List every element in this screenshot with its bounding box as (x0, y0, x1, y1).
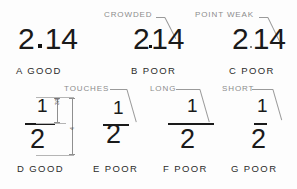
decimal-c-fraction: 14 (253, 24, 286, 54)
decimal-c-whole: 2 (232, 24, 249, 54)
dim-line-outer (72, 98, 73, 154)
callout-short: SHORT (222, 85, 254, 93)
decimal-b-whole: 2 (133, 24, 150, 54)
fraction-f-numerator: 1 (187, 96, 198, 115)
callout-touches: TOUCHES (64, 85, 109, 93)
decimal-numeral-a: 214 (18, 24, 78, 54)
caption-e: E POOR (93, 164, 138, 174)
callout-touches-leader-stub (110, 89, 127, 90)
dim-label-outer: 4 (70, 127, 75, 130)
fraction-g-numerator: 1 (257, 96, 268, 115)
caption-c: C POOR (229, 66, 275, 76)
dim-extension-bottom (36, 155, 74, 156)
fraction-e-denominator: 2 (106, 121, 121, 148)
decimal-a-whole: 2 (18, 24, 35, 54)
callout-short-leader-stub (252, 89, 273, 90)
decimal-point-c (250, 46, 252, 48)
caption-b: B POOR (131, 66, 176, 76)
dim-tick-outer-bottom (69, 154, 75, 155)
dim-extension-mid (36, 123, 66, 124)
fraction-d-numerator: 1 (37, 96, 48, 115)
callout-long: LONG (150, 85, 176, 93)
decimal-a-fraction: 14 (45, 24, 78, 54)
decimal-b-fraction: 14 (151, 24, 184, 54)
caption-d: D GOOD (17, 164, 64, 174)
decimal-numeral-c: 214 (232, 24, 286, 54)
fraction-d: 1 2 (22, 96, 66, 158)
dim-tick-inner-bottom (54, 122, 60, 123)
caption-a: A GOOD (16, 66, 62, 76)
fraction-d-denominator: 2 (30, 126, 45, 153)
caption-g: G POOR (231, 164, 277, 174)
callout-long-leader-stub (176, 89, 200, 90)
fraction-g-denominator: 2 (251, 126, 266, 153)
fraction-f-denominator: 2 (180, 126, 195, 153)
decimal-numeral-b: 214 (133, 24, 185, 54)
decimal-point-a (38, 44, 42, 48)
fraction-g: 1 2 (242, 96, 286, 158)
decimal-point-b (149, 45, 153, 49)
fraction-f: 1 2 (170, 96, 220, 158)
callout-point-weak: POINT WEAK (195, 11, 254, 19)
fraction-e-numerator: 1 (113, 98, 124, 117)
dim-tick-outer-top (69, 98, 75, 99)
callout-crowded: CROWDED (104, 11, 153, 19)
figure-sheet: 214 A GOOD CROWDED 214 B POOR POINT WEAK… (0, 0, 297, 189)
caption-f: F POOR (163, 164, 208, 174)
fraction-e: 1 2 (98, 96, 142, 158)
dim-label-inner: 3/8 (55, 97, 60, 105)
